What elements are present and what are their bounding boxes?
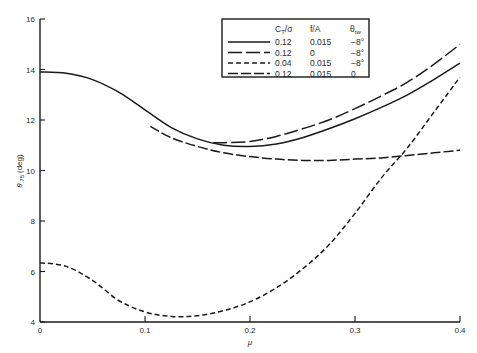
series-line-dash [150, 126, 460, 160]
x-tick-label: 0.4 [454, 326, 466, 335]
y-tick-label: 16 [26, 15, 35, 24]
plot-area [40, 44, 460, 316]
y-tick-label: 8 [31, 217, 36, 226]
legend-ct-sigma: 0.12 [275, 48, 292, 58]
y-tick-label: 10 [26, 167, 35, 176]
x-tick-label: 0.2 [244, 326, 256, 335]
x-axis-label: μ [247, 338, 253, 347]
y-tick-label: 14 [26, 66, 35, 75]
legend-theta-tw: −8° [351, 37, 364, 47]
legend-f-over-a: 0 [310, 48, 315, 58]
legend: CT/σ f/A θtw 0.120.015−8°0.120−8°0.040.0… [222, 19, 369, 79]
legend-f-over-a: 0.015 [310, 37, 332, 47]
y-tick-label: 6 [31, 268, 36, 277]
legend-ct-sigma: 0.12 [275, 69, 292, 79]
chart: 4681012141600.10.20.30.4 CT/σ f/A θtw 0.… [0, 0, 477, 353]
legend-ct-sigma: 0.12 [275, 37, 292, 47]
legend-box [222, 19, 369, 77]
legend-header-f-over-a: f/A [310, 24, 321, 34]
x-tick-label: 0.1 [139, 326, 151, 335]
legend-f-over-a: 0.015 [310, 58, 332, 68]
y-tick-label: 12 [26, 116, 35, 125]
y-tick-label: 4 [31, 318, 36, 327]
legend-f-over-a: 0.015 [310, 69, 332, 79]
legend-header-ct-sigma: CT/σ [275, 24, 293, 35]
x-tick-label: 0 [38, 326, 43, 335]
legend-theta-tw: 0 [351, 69, 356, 79]
series-line-short-dash [40, 77, 460, 317]
y-axis-label: θ.75(deg) [15, 154, 25, 188]
legend-theta-tw: −8° [351, 48, 364, 58]
legend-theta-tw: −8° [351, 58, 364, 68]
x-tick-label: 0.3 [349, 326, 361, 335]
legend-ct-sigma: 0.04 [275, 58, 292, 68]
